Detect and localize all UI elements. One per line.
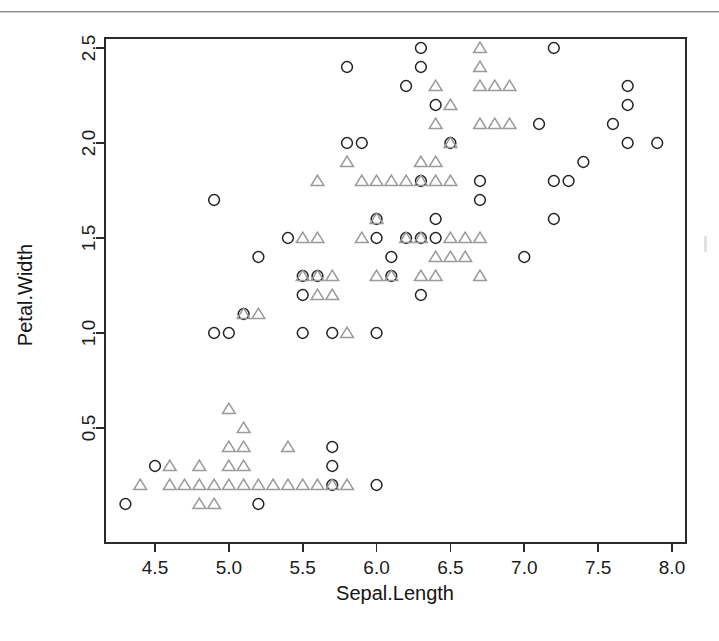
data-point-triangle [429,251,442,261]
plot-panel-border [105,38,686,543]
data-point-circle [622,138,633,149]
data-point-triangle [444,99,457,109]
data-point-circle [297,290,308,301]
data-point-triangle [163,460,176,470]
data-point-triangle [252,479,265,489]
data-point-circle [548,176,559,187]
data-point-triangle [296,479,309,489]
data-point-triangle [459,232,472,242]
data-point-circle [608,119,619,130]
data-point-triangle [400,175,413,185]
data-point-triangle [222,441,235,451]
data-point-circle [548,43,559,54]
data-point-circle [430,214,441,225]
data-point-circle [327,328,338,339]
x-tick-label: 7.0 [511,557,537,578]
data-point-circle [578,157,589,168]
data-point-circle [209,328,220,339]
data-point-triangle [326,289,339,299]
data-point-circle [342,62,353,73]
data-point-triangle [222,479,235,489]
data-point-triangle [385,175,398,185]
data-point-triangle [134,479,147,489]
data-point-circle [475,176,486,187]
data-point-triangle [163,479,176,489]
plot-canvas: 4.55.05.56.06.57.07.58.0 0.51.01.52.02.5… [0,0,719,641]
data-point-triangle [193,460,206,470]
y-tick-label: 1.0 [78,320,99,346]
data-point-triangle [237,422,250,432]
data-point-circle [652,138,663,149]
data-point-triangle [488,118,501,128]
data-point-triangle [208,479,221,489]
data-point-circle [253,499,264,510]
data-point-circle [150,461,161,472]
x-tick-label: 8.0 [659,557,685,578]
data-point-circle [401,81,412,92]
data-point-triangle [311,289,324,299]
data-point-triangle [459,251,472,261]
x-axis-title: Sepal.Length [336,582,454,604]
data-point-circle [253,252,264,263]
data-point-circle [386,252,397,263]
data-point-triangle [444,232,457,242]
data-point-triangle [208,498,221,508]
data-point-triangle [474,118,487,128]
data-point-triangle [282,441,295,451]
data-point-triangle [429,270,442,280]
data-point-circle [327,461,338,472]
x-tick-label: 5.0 [216,557,242,578]
y-tick-label: 2.5 [78,35,99,61]
x-axis: 4.55.05.56.06.57.07.58.0 [142,543,685,578]
data-point-triangle [355,175,368,185]
data-point-triangle [474,80,487,90]
data-point-circle [209,195,220,206]
data-point-circle [430,100,441,111]
data-point-circle [283,233,294,244]
y-axis-title: Petal.Width [14,244,36,346]
data-point-triangle [311,232,324,242]
data-point-circle [563,176,574,187]
data-point-triangle [237,479,250,489]
data-point-triangle [474,42,487,52]
data-point-triangle [311,175,324,185]
x-tick-label: 6.0 [363,557,389,578]
data-point-circle [622,100,633,111]
data-point-triangle [474,232,487,242]
data-point-circle [415,62,426,73]
data-point-triangle [503,80,516,90]
data-point-circle [622,81,633,92]
data-point-triangle [341,479,354,489]
data-point-circle [371,328,382,339]
data-point-triangle [296,232,309,242]
data-point-circle [120,499,131,510]
data-point-triangle [222,460,235,470]
data-point-circle [223,328,234,339]
data-point-circle [415,43,426,54]
data-point-triangle [267,479,280,489]
data-point-circle [475,195,486,206]
data-point-triangle [474,61,487,71]
data-point-triangle [488,80,501,90]
data-point-circle [371,480,382,491]
data-point-circle [371,233,382,244]
y-axis: 0.51.01.52.02.5 [78,35,106,441]
data-point-triangle [341,327,354,337]
data-point-triangle [474,270,487,280]
data-point-triangle [370,270,383,280]
data-point-circle [534,119,545,130]
data-point-triangle [252,308,265,318]
data-point-triangle [282,479,295,489]
data-point-triangle [444,175,457,185]
data-point-triangle [503,118,516,128]
x-tick-label: 5.5 [290,557,316,578]
data-point-circle [297,328,308,339]
scatter-plot-figure: 4.55.05.56.06.57.07.58.0 0.51.01.52.02.5… [0,0,719,641]
y-tick-label: 1.5 [78,225,99,251]
x-tick-label: 6.5 [437,557,463,578]
data-point-triangle [414,270,427,280]
y-tick-label: 2.0 [78,130,99,156]
data-point-triangle [326,270,339,280]
data-point-triangle [222,403,235,413]
data-point-circle [548,214,559,225]
